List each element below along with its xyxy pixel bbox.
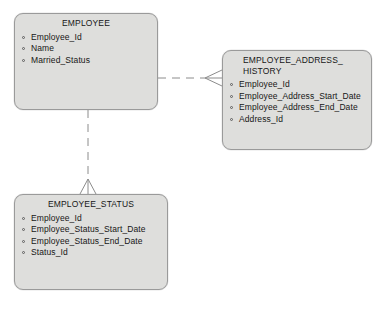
entity-title-line-2: HISTORY <box>243 66 282 76</box>
attribute-label: Name <box>31 43 54 53</box>
attribute-label: Employee_Address_Start_Date <box>239 91 361 101</box>
attribute-list-employee-status: Employee_Id Employee_Status_Start_Date E… <box>15 213 167 259</box>
er-diagram-canvas: EMPLOYEE Employee_Id Name Married_Status… <box>0 0 380 309</box>
attribute-bullet-icon <box>22 47 25 50</box>
entity-employee-address-history[interactable]: EMPLOYEE_ADDRESS_HISTORY Employee_Id Emp… <box>222 50 372 150</box>
attribute-row[interactable]: Employee_Status_Start_Date <box>22 224 167 236</box>
entity-employee[interactable]: EMPLOYEE Employee_Id Name Married_Status <box>14 13 158 110</box>
attribute-bullet-icon <box>230 95 233 98</box>
attribute-label: Address_Id <box>239 114 283 124</box>
attribute-bullet-icon <box>230 118 233 121</box>
entity-title-employee-status: EMPLOYEE_STATUS <box>15 195 167 210</box>
attribute-bullet-icon <box>230 106 233 109</box>
attribute-row[interactable]: Status_Id <box>22 247 167 259</box>
attribute-label: Married_Status <box>31 55 90 65</box>
entity-title-line-1: EMPLOYEE_ADDRESS_ <box>243 55 343 65</box>
attribute-list-employee: Employee_Id Name Married_Status <box>15 32 157 67</box>
attribute-row[interactable]: Employee_Id <box>22 213 167 225</box>
attribute-row[interactable]: Employee_Id <box>230 79 371 91</box>
relationship-employee-to-address-history[interactable] <box>158 70 222 86</box>
attribute-bullet-icon <box>230 83 233 86</box>
attribute-row[interactable]: Married_Status <box>22 55 157 67</box>
attribute-label: Employee_Id <box>31 213 82 223</box>
attribute-bullet-icon <box>22 228 25 231</box>
relationship-employee-to-status[interactable] <box>80 110 96 194</box>
attribute-label: Employee_Id <box>239 79 290 89</box>
attribute-label: Status_Id <box>31 247 68 257</box>
attribute-row[interactable]: Employee_Status_End_Date <box>22 236 167 248</box>
attribute-row[interactable]: Employee_Address_Start_Date <box>230 91 371 103</box>
attribute-bullet-icon <box>22 36 25 39</box>
attribute-bullet-icon <box>22 240 25 243</box>
attribute-row[interactable]: Employee_Address_End_Date <box>230 102 371 114</box>
entity-employee-status[interactable]: EMPLOYEE_STATUS Employee_Id Employee_Sta… <box>14 194 168 290</box>
attribute-label: Employee_Status_End_Date <box>31 236 143 246</box>
attribute-label: Employee_Status_Start_Date <box>31 224 146 234</box>
attribute-bullet-icon <box>22 217 25 220</box>
attribute-list-employee-address-history: Employee_Id Employee_Address_Start_Date … <box>223 79 371 125</box>
attribute-row[interactable]: Name <box>22 43 157 55</box>
attribute-bullet-icon <box>22 59 25 62</box>
attribute-bullet-icon <box>22 251 25 254</box>
crows-foot-icon-status <box>80 179 96 194</box>
crows-foot-icon-address-history <box>205 70 222 86</box>
entity-title-employee: EMPLOYEE <box>15 14 157 29</box>
attribute-row[interactable]: Employee_Id <box>22 32 157 44</box>
attribute-label: Employee_Address_End_Date <box>239 102 358 112</box>
attribute-label: Employee_Id <box>31 32 82 42</box>
attribute-row[interactable]: Address_Id <box>230 114 371 126</box>
entity-title-employee-address-history: EMPLOYEE_ADDRESS_HISTORY <box>223 51 371 76</box>
